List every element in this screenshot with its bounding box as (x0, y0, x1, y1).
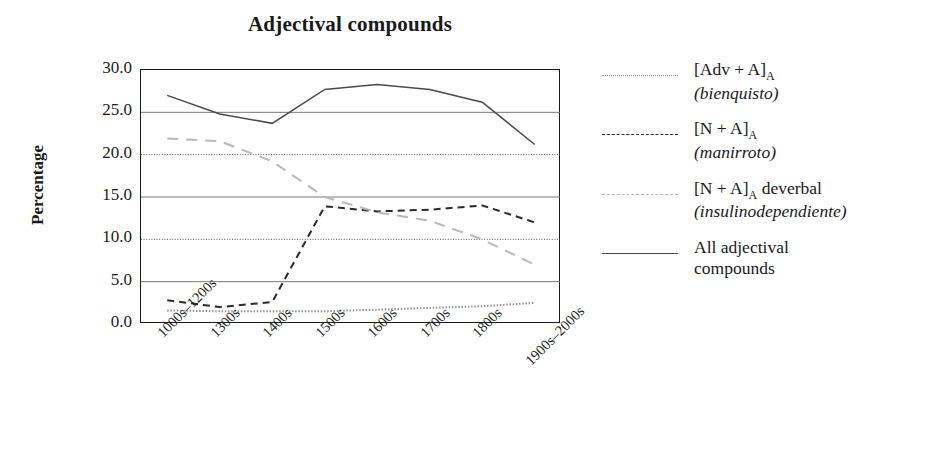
legend-label-line1: [Adv + A]A (694, 59, 779, 83)
legend-label-line2: (insulinodependiente) (694, 201, 847, 222)
series-line-2 (167, 139, 535, 265)
y-tick-label: 25.0 (70, 100, 132, 120)
y-tick-label: 0.0 (70, 312, 132, 332)
legend-label-line1: [N + A]A (694, 118, 776, 142)
legend-item[interactable]: All adjectivalcompounds (600, 236, 920, 278)
legend-label-line1: [N + A]A deverbal (694, 178, 847, 202)
legend-label: All adjectivalcompounds (694, 236, 789, 278)
chart-title: Adjectival compounds (140, 12, 560, 37)
legend-label: [N + A]A(manirroto) (694, 117, 776, 162)
chart-legend: [Adv + A]A(bienquisto)[N + A]A(manirroto… (600, 58, 920, 292)
series-line-0 (167, 303, 535, 311)
series-line-3 (167, 84, 535, 144)
series-line-1 (167, 205, 535, 307)
y-tick-label: 20.0 (70, 143, 132, 163)
legend-line-icon (600, 184, 680, 204)
legend-item[interactable]: [Adv + A]A(bienquisto) (600, 58, 920, 103)
legend-item[interactable]: [N + A]A(manirroto) (600, 117, 920, 162)
y-tick-label: 10.0 (70, 227, 132, 247)
legend-line-icon (600, 124, 680, 144)
x-axis-labels: 1000s–1200s1300s1400s1500s1600s1700s1800… (140, 323, 560, 458)
chart-container: Adjectival compounds Percentage 0.05.010… (0, 0, 925, 458)
legend-label: [N + A]A deverbal(insulinodependiente) (694, 177, 847, 222)
legend-label: [Adv + A]A(bienquisto) (694, 58, 779, 103)
legend-label-line1: All adjectival (694, 237, 789, 258)
y-axis-title: Percentage (28, 95, 48, 275)
legend-item[interactable]: [N + A]A deverbal(insulinodependiente) (600, 177, 920, 222)
legend-line-icon (600, 65, 680, 85)
y-tick-label: 15.0 (70, 185, 132, 205)
legend-line-icon (600, 243, 680, 263)
y-tick-label: 5.0 (70, 270, 132, 290)
y-tick-label: 30.0 (70, 58, 132, 78)
legend-label-line2: (bienquisto) (694, 83, 779, 104)
legend-label-line2: compounds (694, 258, 789, 279)
y-axis-ticks: 0.05.010.015.020.025.030.0 (66, 0, 132, 458)
legend-label-line2: (manirroto) (694, 142, 776, 163)
